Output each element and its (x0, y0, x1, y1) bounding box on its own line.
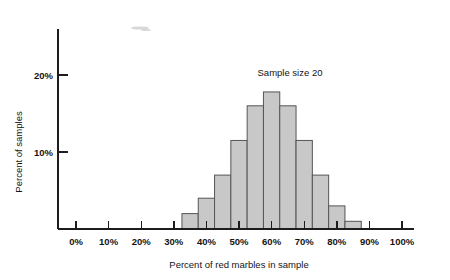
histogram-bar (312, 175, 328, 229)
histogram-bar (345, 221, 361, 229)
histogram-bar (231, 140, 247, 229)
histogram-bar (263, 92, 279, 229)
x-axis-tick-label: 60% (262, 236, 282, 247)
chart-canvas: 0%10%20%30%40%50%60%70%80%90%100% 10%20%… (0, 0, 450, 280)
x-axis-tick-label: 20% (132, 236, 152, 247)
scan-artifact (131, 26, 151, 31)
histogram-bars (182, 92, 361, 229)
x-axis-tick-label: 0% (69, 236, 83, 247)
y-axis-tick-label: 20% (34, 70, 54, 81)
histogram-bar (296, 140, 312, 229)
sample-size-annotation: Sample size 20 (258, 67, 323, 78)
x-axis-tick-label: 30% (164, 236, 184, 247)
x-axis-tick-label: 40% (197, 236, 217, 247)
x-axis-tick-label: 10% (99, 236, 119, 247)
x-axis-tick-label: 70% (295, 236, 315, 247)
histogram-bar (215, 175, 231, 229)
y-axis-ticks: 10%20% (34, 70, 68, 158)
x-axis-tick-label: 50% (229, 236, 249, 247)
x-axis-tick-label: 80% (327, 236, 347, 247)
histogram-bar (247, 106, 263, 229)
y-axis-tick-label: 10% (34, 147, 54, 158)
y-axis-title: Percent of samples (13, 111, 24, 193)
histogram-bar (182, 214, 198, 229)
histogram-bar (280, 106, 296, 229)
x-axis-tick-label: 100% (390, 236, 415, 247)
x-axis-title: Percent of red marbles in sample (169, 259, 308, 270)
histogram-figure: 0%10%20%30%40%50%60%70%80%90%100% 10%20%… (0, 0, 450, 280)
x-axis-tick-label: 90% (360, 236, 380, 247)
